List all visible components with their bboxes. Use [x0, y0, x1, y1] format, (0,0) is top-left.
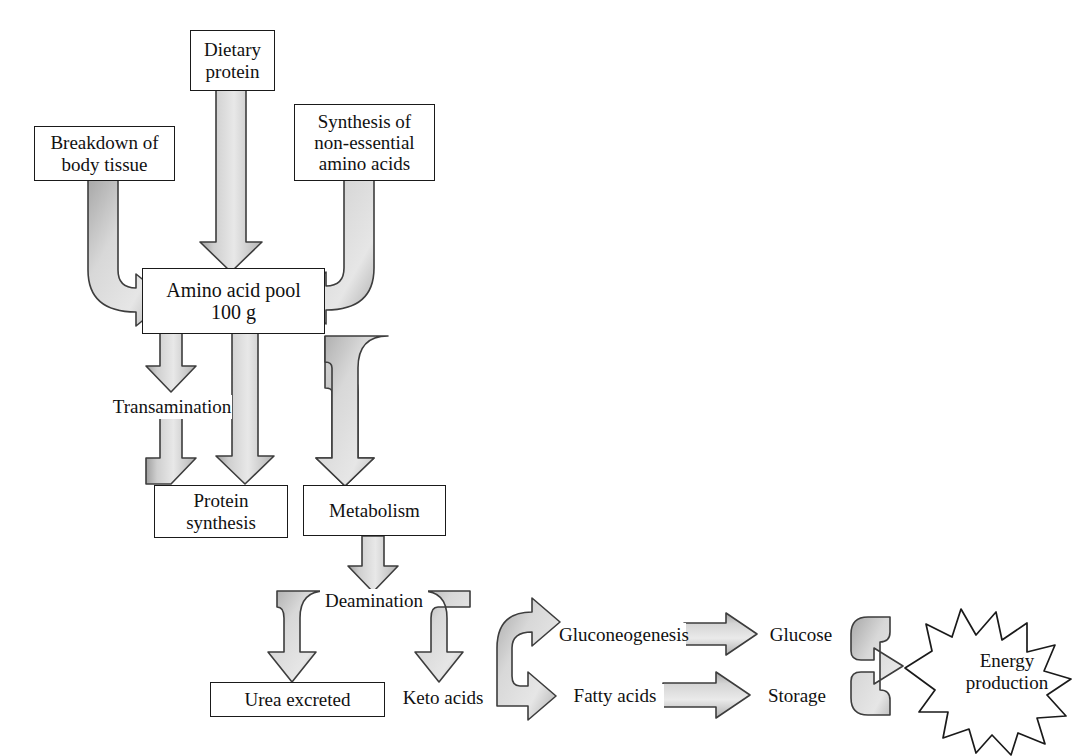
label-line: protein: [206, 61, 260, 82]
node-storage[interactable]: Storage: [757, 684, 837, 708]
node-keto-acids[interactable]: Keto acids: [397, 686, 489, 710]
node-fatty-acids-label: Fatty acids: [574, 685, 657, 706]
node-urea-excreted[interactable]: Urea excreted: [210, 682, 385, 717]
node-synthesis-non-essential-amino-acids[interactable]: Synthesis of non-essential amino acids: [294, 104, 435, 181]
arrow-merge-to-energy-production: [851, 617, 903, 715]
node-urea-excreted-label: Urea excreted: [244, 689, 350, 710]
node-metabolism-label: Metabolism: [329, 500, 420, 521]
node-deamination-label: Deamination: [325, 590, 423, 611]
label-line: synthesis: [186, 512, 256, 533]
node-protein-synthesis[interactable]: Protein synthesis: [154, 485, 288, 538]
label-line: Protein: [194, 490, 249, 511]
label-line: Synthesis of: [318, 111, 411, 132]
node-gluconeogenesis[interactable]: Gluconeogenesis: [562, 623, 686, 647]
node-glucose[interactable]: Glucose: [760, 623, 842, 647]
node-storage-label: Storage: [768, 685, 826, 706]
node-dietary-protein[interactable]: Dietary protein: [190, 30, 275, 91]
node-breakdown-body-tissue-label: Breakdown of body tissue: [50, 132, 158, 175]
diagram-canvas: Dietary protein Breakdown of body tissue…: [0, 0, 1083, 756]
arrow-transamination-to-protein-synthesis: [146, 418, 196, 484]
label-line: 100 g: [211, 301, 256, 323]
label-line: Amino acid pool: [166, 279, 300, 301]
arrow-keto-acids-split: [497, 598, 560, 720]
node-metabolism[interactable]: Metabolism: [303, 485, 446, 536]
node-fatty-acids[interactable]: Fatty acids: [566, 684, 664, 708]
node-protein-synthesis-label: Protein synthesis: [186, 490, 256, 533]
label-line: non-essential: [314, 132, 414, 153]
arrow-deamination-to-urea: [268, 591, 325, 682]
arrow-gluconeogenesis-to-glucose: [684, 613, 757, 655]
arrow-pool-to-metabolism-stem: [316, 336, 388, 486]
arrow-metabolism-to-deamination: [348, 536, 398, 592]
node-glucose-label: Glucose: [770, 624, 832, 645]
arrow-dietary-protein-to-pool: [200, 90, 262, 272]
arrow-fatty-acids-to-storage: [663, 672, 750, 718]
node-deamination[interactable]: Deamination: [320, 589, 428, 613]
label-line: amino acids: [319, 153, 410, 174]
label-line: Energy: [980, 650, 1035, 671]
node-transamination[interactable]: Transamination: [112, 395, 232, 419]
node-transamination-label: Transamination: [113, 396, 232, 417]
node-breakdown-body-tissue[interactable]: Breakdown of body tissue: [34, 126, 175, 181]
label-line: production: [966, 672, 1048, 693]
node-energy-production-label: Energy production: [966, 650, 1048, 693]
label-line: body tissue: [61, 154, 147, 175]
arrow-pool-to-transamination: [146, 333, 196, 392]
node-amino-acid-pool[interactable]: Amino acid pool 100 g: [142, 268, 325, 334]
node-gluconeogenesis-label: Gluconeogenesis: [559, 624, 689, 645]
node-keto-acids-label: Keto acids: [403, 687, 484, 708]
label-line: Breakdown of: [50, 132, 158, 153]
label-line: Dietary: [204, 39, 261, 60]
node-dietary-protein-label: Dietary protein: [204, 39, 261, 82]
node-synthesis-non-essential-amino-acids-label: Synthesis of non-essential amino acids: [314, 111, 414, 175]
node-amino-acid-pool-label: Amino acid pool 100 g: [166, 279, 300, 324]
arrow-layer: [0, 0, 1083, 756]
node-energy-production[interactable]: Energy production: [942, 645, 1072, 699]
